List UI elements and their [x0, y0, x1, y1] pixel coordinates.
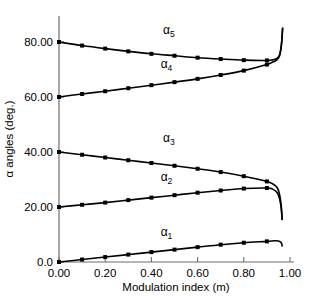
data-point-marker	[173, 164, 177, 168]
data-point-marker	[80, 153, 84, 157]
data-point-marker	[80, 92, 84, 96]
data-point-marker	[196, 167, 200, 171]
x-tick-label: 0.40	[140, 267, 162, 279]
data-point-marker	[80, 203, 84, 207]
data-point-marker	[219, 73, 223, 77]
data-point-marker	[173, 54, 177, 58]
series-label-α_2: α2	[161, 170, 173, 186]
data-point-marker	[242, 69, 246, 73]
data-point-marker	[80, 44, 84, 48]
data-point-marker	[126, 253, 130, 257]
x-axis-tick-labels: 0.000.200.400.600.801.00	[48, 267, 301, 279]
y-tick-label: 80.00	[24, 36, 53, 48]
x-tick-label: 1.00	[279, 267, 301, 279]
data-point-marker	[103, 201, 107, 205]
data-point-marker	[57, 40, 61, 44]
series-label-α_5: α5	[163, 23, 175, 39]
series-curve-α_3	[59, 152, 282, 219]
data-point-marker	[103, 47, 107, 51]
data-point-marker	[196, 245, 200, 249]
data-point-marker	[242, 187, 246, 191]
data-point-marker	[265, 186, 269, 190]
data-point-marker	[219, 57, 223, 61]
data-point-marker	[173, 193, 177, 197]
data-point-marker	[265, 239, 269, 243]
axis-tickmarks	[59, 42, 290, 262]
data-point-marker	[196, 56, 200, 60]
data-point-marker	[103, 89, 107, 93]
data-point-marker	[242, 241, 246, 245]
data-point-marker	[57, 150, 61, 154]
data-point-marker	[149, 196, 153, 200]
data-point-marker	[219, 189, 223, 193]
data-point-marker	[242, 58, 246, 62]
series-label-α_1: α1	[161, 225, 173, 241]
data-point-marker	[149, 52, 153, 56]
data-point-marker	[219, 170, 223, 174]
data-point-marker	[265, 179, 269, 183]
data-point-marker	[196, 77, 200, 81]
alpha-angles-line-chart: 0.020.0040.0060.0080.00 0.000.200.400.60…	[0, 0, 316, 296]
x-tick-label: 0.80	[233, 267, 255, 279]
series-curve-α_2	[59, 188, 282, 219]
data-point-marker	[103, 255, 107, 259]
data-point-marker	[219, 243, 223, 247]
data-point-marker	[149, 250, 153, 254]
y-tick-label: 20.00	[24, 201, 53, 213]
x-tick-label: 0.20	[94, 267, 116, 279]
data-point-marker	[103, 156, 107, 160]
y-axis-title: α angles (deg.)	[3, 100, 15, 177]
x-axis-title: Modulation index (m)	[122, 281, 230, 293]
data-point-marker	[126, 49, 130, 53]
data-point-marker	[265, 63, 269, 67]
chart-figure: 0.020.0040.0060.0080.00 0.000.200.400.60…	[0, 0, 316, 296]
data-point-marker	[80, 258, 84, 262]
data-point-marker	[196, 191, 200, 195]
data-point-marker	[126, 86, 130, 90]
data-point-marker	[57, 95, 61, 99]
y-tick-label: 40.00	[24, 146, 53, 158]
series-curve-α_1	[59, 241, 282, 262]
y-tick-label: 60.00	[24, 91, 53, 103]
data-point-marker	[173, 248, 177, 252]
data-point-marker	[149, 161, 153, 165]
x-tick-label: 0.00	[48, 267, 70, 279]
data-point-marker	[149, 83, 153, 87]
series-label-α_4: α4	[161, 57, 173, 73]
data-point-marker	[57, 260, 61, 264]
data-point-marker	[265, 58, 269, 62]
x-tick-label: 0.60	[186, 267, 208, 279]
series-label-α_3: α3	[163, 131, 175, 147]
data-point-marker	[57, 205, 61, 209]
data-point-marker	[173, 80, 177, 84]
data-point-marker	[242, 174, 246, 178]
y-axis-tick-labels: 0.020.0040.0060.0080.00	[24, 36, 53, 268]
data-point-marker	[126, 158, 130, 162]
data-point-marker	[126, 198, 130, 202]
